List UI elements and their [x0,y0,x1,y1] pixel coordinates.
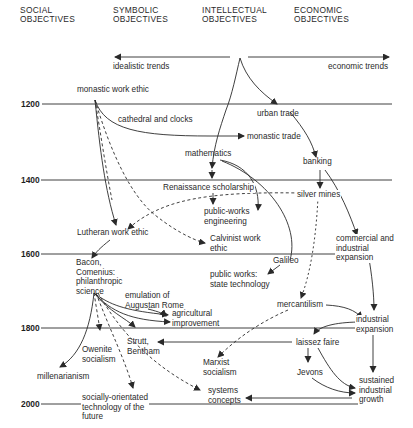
node-public-works-engineering: public-works engineering [204,207,250,226]
column-header-economic: ECONOMIC OBJECTIVES [294,6,349,25]
node-lutheran-work-ethic: Lutheran work ethic [77,228,148,238]
economic-trends-label: economic trends [328,62,388,72]
node-renaissance-scholarship: Renaissance scholarship [162,183,255,193]
idealistic-trends-label: idealistic trends [113,62,169,72]
node-mathematics: mathematics [185,149,231,159]
column-header-social: SOCIAL OBJECTIVES [20,6,75,25]
node-sustained-industrial-growth: sustained industrial growth [358,376,395,405]
column-header-symbolic: SYMBOLIC OBJECTIVES [113,6,168,25]
node-commercial-industrial-expansion: commercial and industrial expansion [335,234,395,263]
node-monastic-trade: monastic trade [247,132,301,142]
node-owenite-socialism: Owenite socialism [82,345,116,364]
node-cathedral-and-clocks: cathedral and clocks [118,115,193,125]
year-label-1600: 1600 [20,249,41,259]
year-label-1800: 1800 [20,323,41,333]
node-galileo: Galileo [273,256,299,266]
year-label-2000: 2000 [20,399,41,409]
year-label-1200: 1200 [20,99,41,109]
node-jevons: Jevons [297,368,323,378]
node-strutt-bentham: Strutt, Bentham [127,337,160,356]
node-laissez-faire: laissez faire [296,338,339,348]
year-label-1400: 1400 [20,175,41,185]
node-emulation-augustan-rome: emulation of Augustan Rome [125,291,184,310]
node-mercantilism: mercantilism [277,300,323,310]
node-industrial-expansion: industrial expansion [355,315,394,334]
node-calvinist-work-ethic: Calvinist work ethic [210,234,261,253]
column-header-intellectual: INTELLECTUAL OBJECTIVES [202,6,267,25]
node-agricultural-improvement: agricultural improvement [172,309,219,328]
node-socially-orientated-technology: socially-orientated technology of the fu… [81,393,149,422]
node-millenarianism: millenarianism [37,372,89,382]
node-public-works-state-technology: public works: state technology [210,270,270,289]
node-monastic-work-ethic: monastic work ethic [77,85,149,95]
node-banking: banking [303,157,332,167]
node-urban-trade: urban trade [257,109,299,119]
node-bacon-comenius: Bacon, Comenius: philanthropic science [76,258,122,296]
node-marxist-socialism: Marxist socialism [203,358,237,377]
node-silver-mines: silver mines [296,190,341,200]
node-systems-concepts: systems concepts [208,386,241,405]
diagram-canvas: SOCIAL OBJECTIVES SYMBOLIC OBJECTIVES IN… [0,0,413,428]
